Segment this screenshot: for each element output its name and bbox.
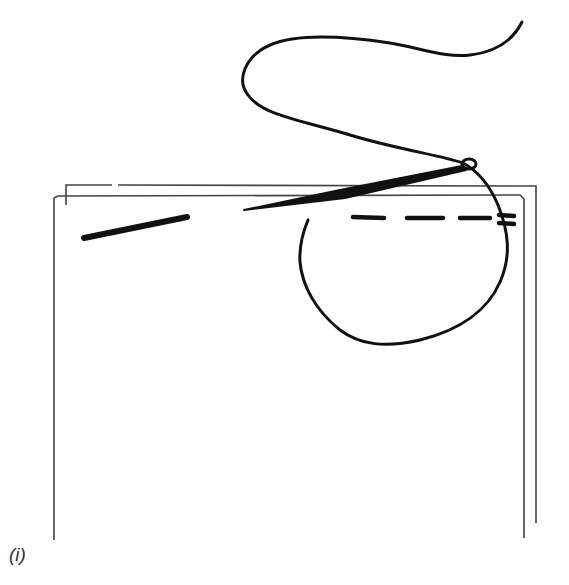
sewing-diagram: (i) bbox=[0, 0, 569, 585]
fabric-layer-back bbox=[66, 185, 536, 523]
needle bbox=[244, 159, 476, 210]
fabric-layer-front bbox=[54, 195, 524, 540]
illustration-canvas bbox=[0, 0, 569, 585]
needle-shaft-under-fabric bbox=[84, 217, 187, 238]
running-stitch bbox=[353, 215, 514, 224]
figure-caption: (i) bbox=[9, 544, 26, 566]
